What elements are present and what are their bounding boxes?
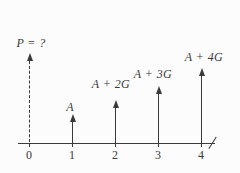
cash-flow-diagram: P = ? A A + 2G A + 3G A + 4G 0 1 2 3 4	[0, 0, 240, 173]
cash-flow-arrow-t0	[25, 53, 34, 147]
arrow-stem	[115, 108, 116, 147]
tick-label-4: 4	[198, 148, 204, 163]
flow-label-t2: A + 2G	[92, 77, 130, 92]
present-value-label: P = ?	[16, 36, 45, 51]
tick-label-2: 2	[112, 148, 118, 163]
flow-label-t3: A + 3G	[134, 67, 172, 82]
arrow-up-icon	[27, 53, 33, 61]
cash-flow-arrow-t3	[154, 86, 163, 147]
arrow-up-icon	[199, 68, 205, 76]
arrow-stem	[201, 76, 202, 147]
flow-label-t4: A + 4G	[185, 50, 223, 65]
cash-flow-arrow-t4	[197, 68, 206, 147]
arrow-stem	[158, 94, 159, 147]
arrow-up-icon	[156, 86, 162, 94]
cash-flow-arrow-t2	[111, 100, 120, 147]
arrow-up-icon	[113, 100, 119, 108]
tick-label-0: 0	[26, 148, 32, 163]
arrow-up-icon	[70, 114, 76, 122]
flow-label-t1: A	[66, 100, 74, 115]
time-axis	[18, 143, 215, 144]
arrow-stem-dashed	[29, 61, 30, 147]
tick-label-1: 1	[69, 148, 75, 163]
tick-label-3: 3	[155, 148, 161, 163]
